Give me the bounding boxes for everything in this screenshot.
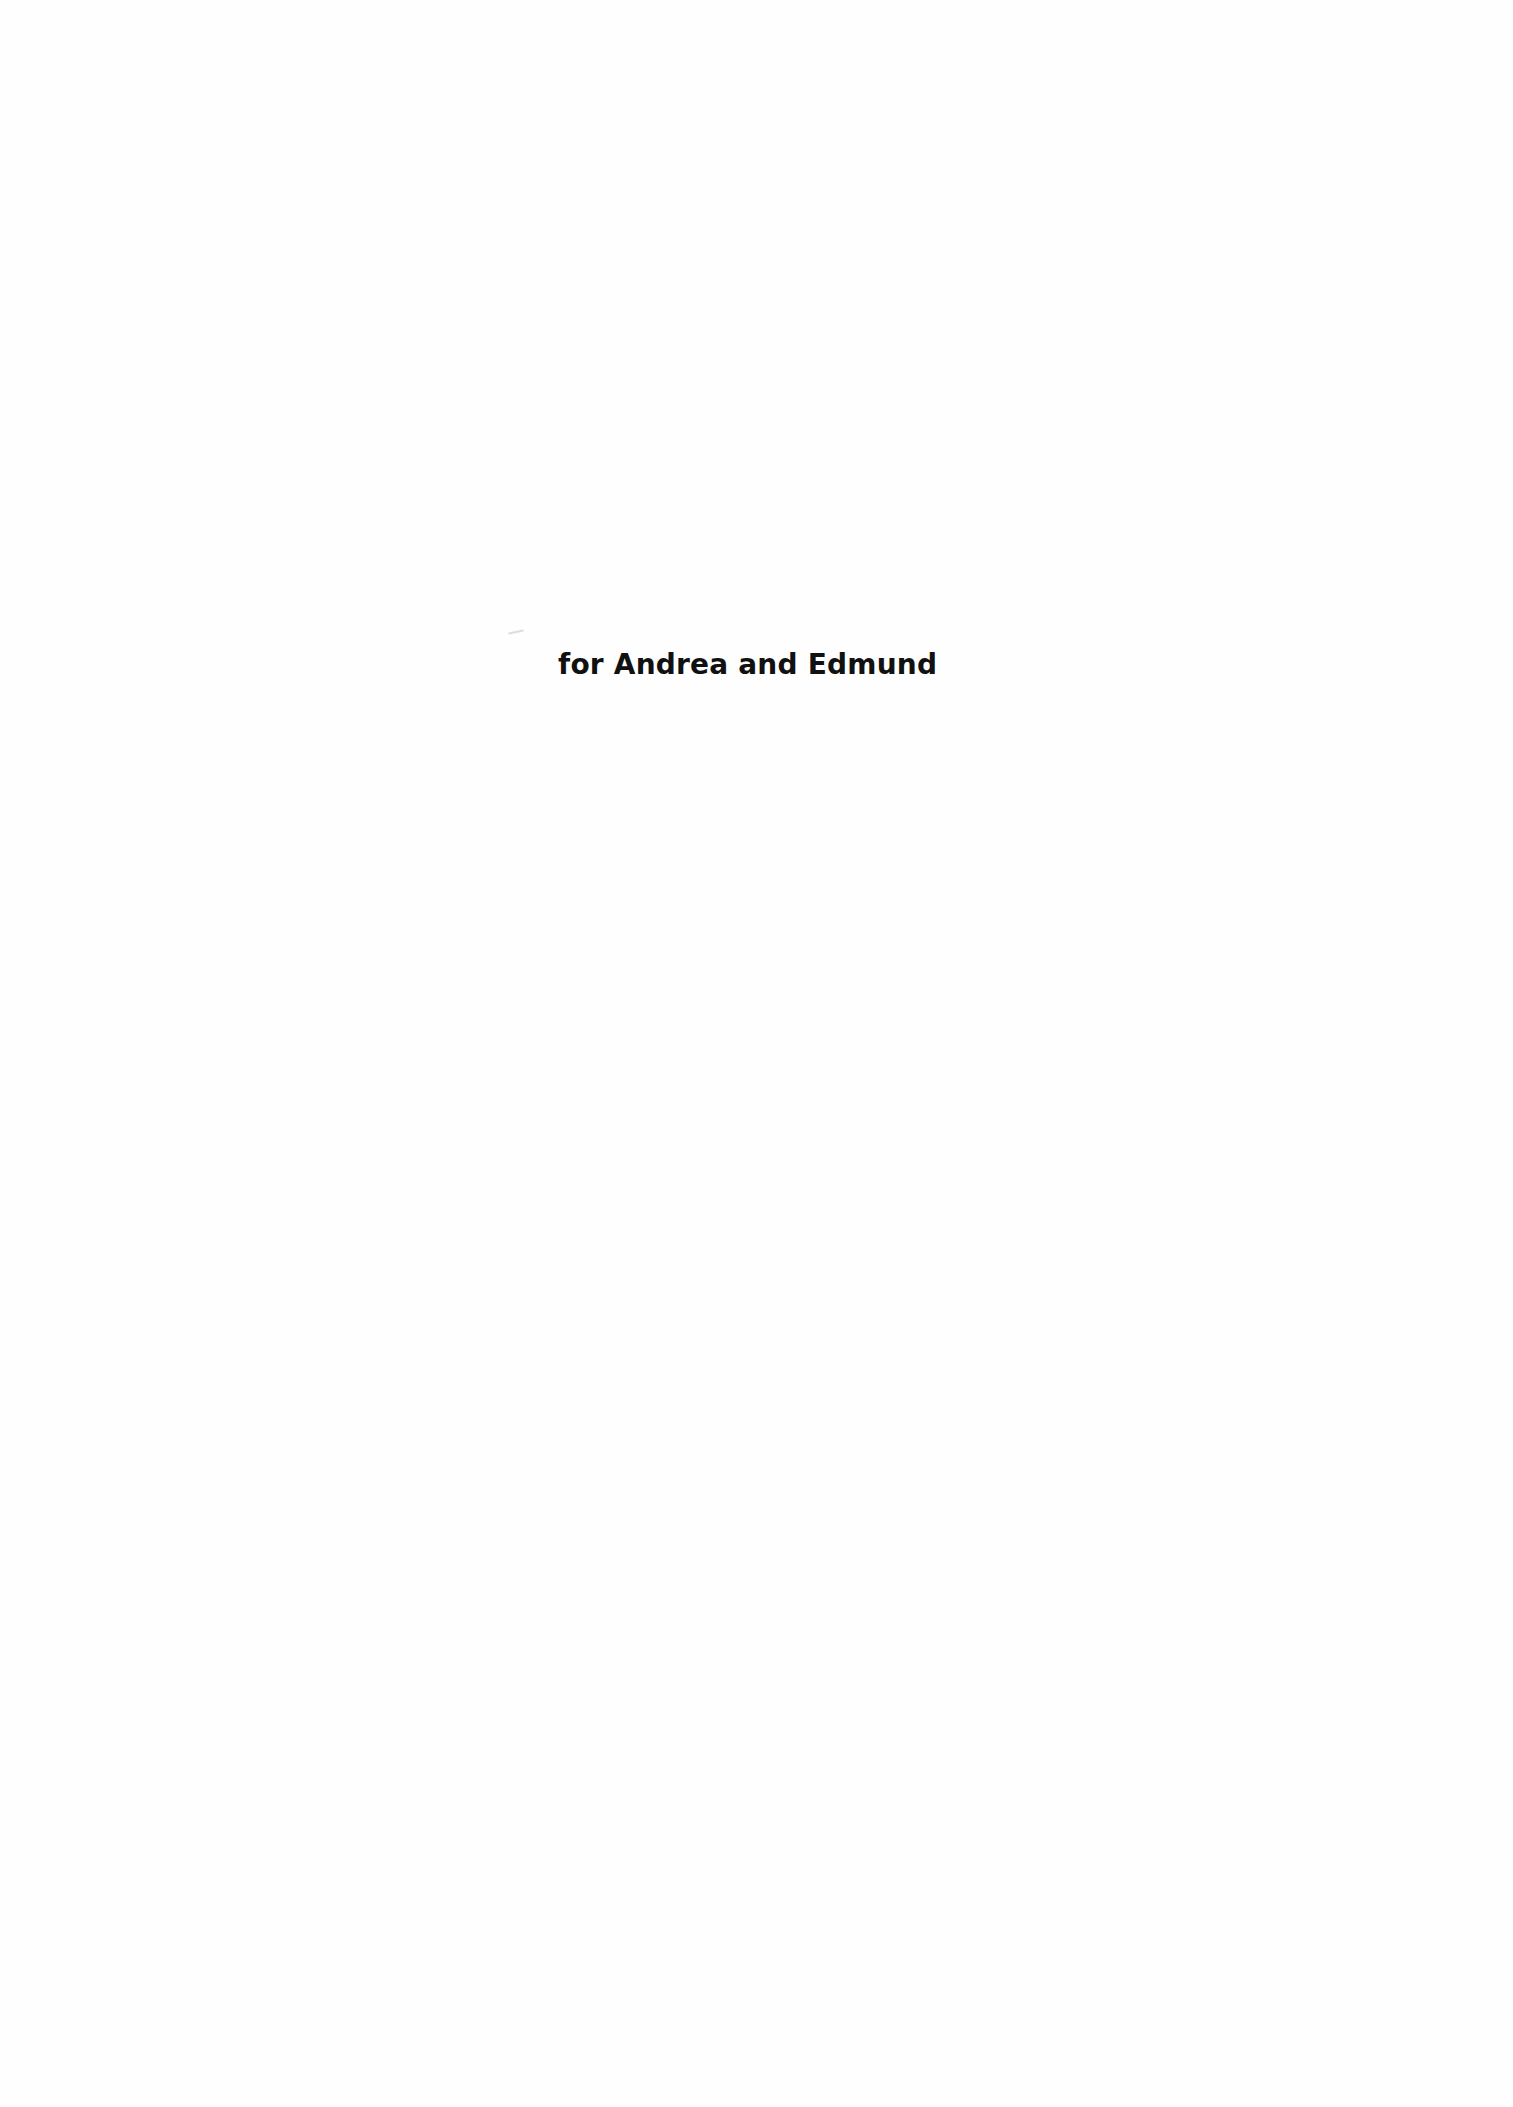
book-page: for Andrea and Edmund — [0, 0, 1513, 2107]
dedication-text: for Andrea and Edmund — [558, 648, 937, 681]
paper-speck — [508, 629, 524, 634]
